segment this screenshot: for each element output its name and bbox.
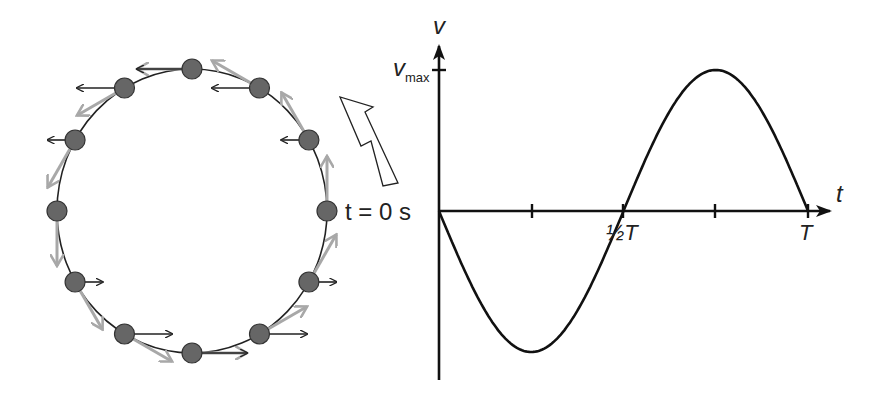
period-label: T <box>799 220 812 246</box>
start-label: t = 0 s <box>345 198 411 226</box>
ball <box>299 130 319 150</box>
ball <box>182 343 202 363</box>
diagram-svg <box>0 0 871 399</box>
ball <box>65 272 85 292</box>
vmax-symbol: v <box>393 54 405 81</box>
y-axis-label: v <box>433 12 445 40</box>
vmax-subscript: max <box>405 70 430 85</box>
ball <box>47 201 67 221</box>
half-period-label: ½T <box>606 220 638 246</box>
figure: t = 0 s v vmax t ½T T <box>0 0 871 399</box>
ball <box>299 272 319 292</box>
ball <box>115 78 135 98</box>
ball <box>250 324 270 344</box>
circular-path <box>57 69 327 353</box>
vmax-label: vmax <box>393 54 430 82</box>
ball <box>250 78 270 98</box>
ball <box>317 201 337 221</box>
ball <box>115 324 135 344</box>
rotation-direction-arrow <box>340 97 398 186</box>
ball <box>182 59 202 79</box>
x-axis-label: t <box>836 180 843 208</box>
ball <box>65 130 85 150</box>
balls-group <box>47 59 337 363</box>
